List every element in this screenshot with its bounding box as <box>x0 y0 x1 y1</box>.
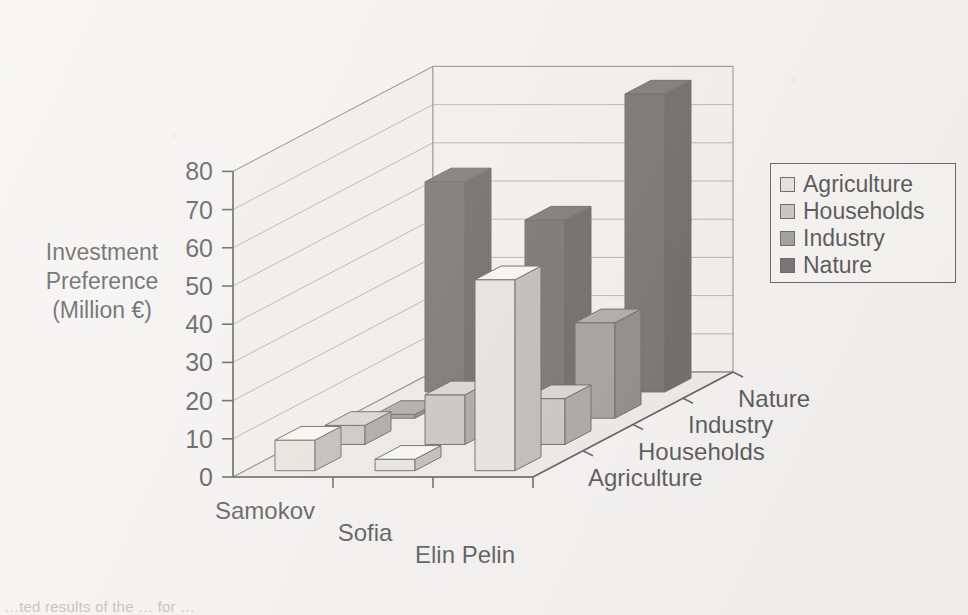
bar-front-face <box>425 182 465 392</box>
legend-label-nature: Nature <box>803 254 872 277</box>
legend-swatch-industry <box>780 231 795 246</box>
bar-front-face <box>375 459 415 470</box>
legend-label-industry: Industry <box>803 227 885 250</box>
legend-item[interactable]: Nature <box>780 252 946 279</box>
bar-front-face <box>425 395 465 445</box>
bar-side-face <box>615 309 641 418</box>
y-axis-tick-label: 50 <box>185 272 213 300</box>
legend-swatch-nature <box>780 258 795 273</box>
y-axis-tick-label: 60 <box>185 234 213 262</box>
y-axis-tick-label: 0 <box>199 463 213 491</box>
depth-axis-tick <box>583 451 593 456</box>
depth-axis-label: Industry <box>688 411 773 438</box>
depth-axis-tick <box>683 398 693 403</box>
bar[interactable] <box>475 266 541 471</box>
legend-swatch-households <box>780 204 795 219</box>
y-axis-tick-label: 40 <box>185 310 213 338</box>
legend-label-agriculture: Agriculture <box>803 173 913 196</box>
y-axis-tick-label: 30 <box>185 348 213 376</box>
bar-front-face <box>475 280 515 471</box>
y-axis-tick-label: 10 <box>185 425 213 453</box>
depth-axis-label: Nature <box>738 385 810 412</box>
legend-label-households: Households <box>803 200 924 223</box>
y-axis-tick-label: 20 <box>185 387 213 415</box>
figure-caption: …ted results of the … for … <box>4 598 195 615</box>
x-axis-category-label: Samokov <box>215 497 315 524</box>
depth-axis-label: Households <box>638 438 765 465</box>
x-axis-category-label: Sofia <box>338 519 393 546</box>
depth-axis-label: Agriculture <box>588 464 703 491</box>
y-axis-title-line-2: Preference <box>18 267 186 296</box>
legend-item[interactable]: Industry <box>780 225 946 252</box>
y-axis-title: Investment Preference (Million €) <box>18 238 186 325</box>
depth-axis-tick <box>733 372 743 377</box>
y-axis-tick-label: 70 <box>185 196 213 224</box>
x-axis: SamokovSofiaElin Pelin <box>215 477 533 568</box>
y-axis-title-line-3: (Million €) <box>18 296 186 325</box>
chart-legend: Agriculture Households Industry Nature <box>770 163 956 283</box>
x-axis-category-label: Elin Pelin <box>415 541 515 568</box>
y-axis: 01020304050607080 <box>185 157 233 491</box>
y-axis-title-line-1: Investment <box>18 238 186 267</box>
bar-side-face <box>665 80 691 392</box>
legend-item[interactable]: Agriculture <box>780 171 946 198</box>
bar-front-face <box>275 440 315 471</box>
legend-item[interactable]: Households <box>780 198 946 225</box>
legend-swatch-agriculture <box>780 177 795 192</box>
depth-axis-tick <box>633 425 643 430</box>
y-axis-tick-label: 80 <box>185 157 213 185</box>
bar-side-face <box>515 266 541 471</box>
